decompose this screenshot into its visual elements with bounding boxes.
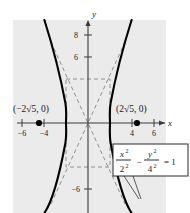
graph-canvas: x y −6 −4 4 6 8 6 −6 (−2√5, 0) (2√5, 0) … bbox=[0, 0, 190, 213]
equation-denominator-left-exponent: 2 bbox=[126, 163, 129, 169]
equation-numerator-left-exponent: 2 bbox=[126, 148, 129, 154]
equation-denominator-right: 4 bbox=[148, 164, 153, 174]
equation-numerator-right-exponent: 2 bbox=[154, 148, 157, 154]
equation-denominator-right-exponent: 2 bbox=[154, 163, 157, 169]
focus-label-left: (−2√5, 0) bbox=[13, 104, 49, 115]
equation-denominator-left: 2 bbox=[120, 164, 125, 174]
y-axis-label: y bbox=[91, 9, 96, 19]
x-tick-label-6: 6 bbox=[152, 129, 156, 138]
y-tick-label-6: 6 bbox=[74, 53, 78, 62]
plot-background bbox=[13, 20, 166, 213]
focus-point-right bbox=[134, 120, 140, 126]
x-axis-label: x bbox=[167, 118, 172, 128]
x-tick-label--4: −4 bbox=[40, 129, 49, 138]
y-tick-label-8: 8 bbox=[74, 31, 78, 40]
equation-equals: = 1 bbox=[164, 157, 176, 167]
x-tick-label-4: 4 bbox=[130, 129, 134, 138]
focus-label-right: (2√5, 0) bbox=[116, 104, 147, 115]
x-tick-label--6: −6 bbox=[18, 129, 27, 138]
hyperbola-figure: x y −6 −4 4 6 8 6 −6 (−2√5, 0) (2√5, 0) … bbox=[0, 0, 190, 213]
equation-operator: − bbox=[136, 157, 141, 167]
focus-point-left bbox=[36, 120, 42, 126]
y-tick-label--6: −6 bbox=[71, 185, 80, 194]
equation-numerator-right: y bbox=[147, 149, 152, 159]
equation-numerator-left: x bbox=[119, 149, 124, 159]
